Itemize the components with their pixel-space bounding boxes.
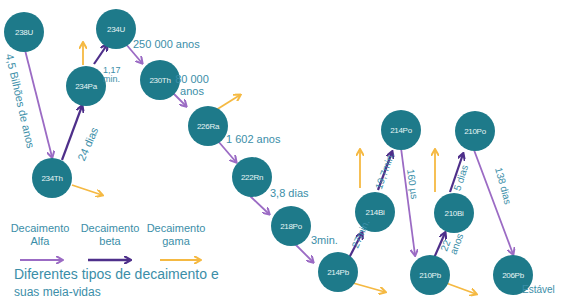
- half-life-ra226: 1 602 anos: [226, 133, 280, 145]
- legend-gamma-line2: gama: [146, 235, 206, 248]
- half-life-th230: 80 000 anos: [172, 73, 212, 97]
- legend-gamma-line1: Decaimento: [146, 222, 206, 235]
- node-th234: 234Th: [32, 158, 72, 198]
- node-pb210: 210Pb: [410, 255, 450, 295]
- node-po218: 218Po: [271, 206, 311, 246]
- half-life-u234: 250 000 anos: [133, 38, 200, 50]
- legend-beta-line1: Decaimento: [80, 222, 140, 235]
- legend-alpha: Decaimento Alfa: [10, 222, 70, 248]
- node-po214: 214Po: [381, 110, 421, 150]
- half-life-pa234: 1,17 min.: [103, 66, 127, 84]
- half-life-po218: 3min.: [311, 234, 338, 246]
- node-pb214: 214Pb: [318, 252, 358, 292]
- node-po210: 210Po: [455, 111, 495, 151]
- node-u238: 238U: [4, 12, 44, 52]
- node-bi210: 210Bi: [434, 193, 474, 233]
- half-life-rn222: 3,8 dias: [270, 187, 309, 199]
- node-u234: 234U: [96, 9, 136, 49]
- legend-beta-line2: beta: [80, 235, 140, 248]
- legend-gamma: Decaimento gama: [146, 222, 206, 248]
- legend-alpha-line1: Decaimento: [10, 222, 70, 235]
- legend-alpha-line2: Alfa: [10, 235, 70, 248]
- node-rn222: 222Rn: [232, 157, 272, 197]
- node-ra226: 226Ra: [188, 106, 228, 146]
- legend-beta: Decaimento beta: [80, 222, 140, 248]
- caption-line2: suas meia-vidas: [14, 285, 101, 299]
- node-pa234: 234Pa: [66, 66, 106, 106]
- caption-line1: Diferentes tipos de decaimento e: [14, 266, 219, 282]
- stable-label: Estável: [522, 284, 555, 296]
